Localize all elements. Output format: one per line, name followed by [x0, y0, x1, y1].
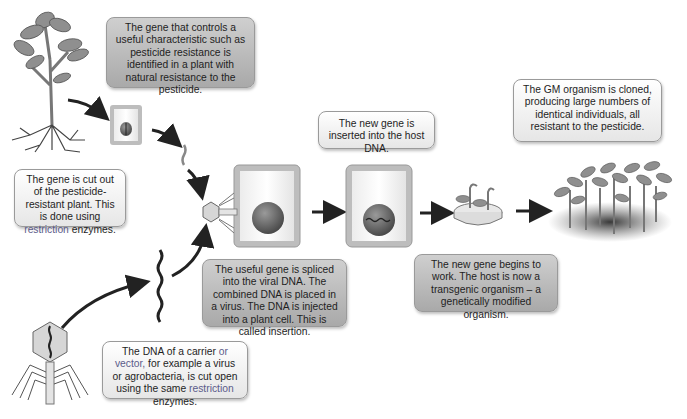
step-cut-out-box: The gene is cut out of the pesticide-res… — [14, 169, 126, 227]
step-insert-text: The new gene is inserted into the host D… — [329, 118, 425, 154]
cloned-plants-icon — [548, 160, 673, 242]
step-clone-box: The GM organism is cloned, producing lar… — [513, 79, 662, 142]
step-vector-box: The DNA of a carrier or vector, for exam… — [102, 341, 248, 399]
gene-fragment-icon — [183, 145, 186, 165]
step-splice-text: The useful gene is spliced into the vira… — [211, 264, 337, 337]
step-vector-text-3: enzymes. — [153, 396, 197, 407]
petri-dish-seedlings-icon — [454, 184, 502, 225]
step-vector-text-1: The DNA of a carrier — [122, 346, 219, 357]
step-transgenic-text: The new gene begins to work. The host is… — [431, 259, 541, 320]
vector-dna-icon — [158, 250, 162, 322]
resistant-plant-icon — [11, 9, 90, 152]
step-splice-box: The useful gene is spliced into the vira… — [202, 259, 347, 327]
step-cut-out-text-end: enzymes. — [69, 224, 116, 235]
virus-vector-icon — [12, 322, 88, 404]
step-transgenic-box: The new gene begins to work. The host is… — [414, 254, 558, 312]
virus-injecting-cell-icon — [203, 165, 300, 247]
host-cell-with-new-gene-icon — [346, 165, 412, 247]
plant-cell-icon — [110, 105, 142, 145]
step-identify-gene-box: The gene that controls a useful characte… — [106, 17, 255, 88]
restriction-term: restriction — [189, 383, 234, 394]
step-identify-gene-text: The gene that controls a useful characte… — [116, 22, 245, 95]
step-insert-box: The new gene is inserted into the host D… — [318, 111, 435, 149]
step-clone-text: The GM organism is cloned, producing lar… — [523, 84, 652, 132]
restriction-term: restriction — [24, 224, 69, 235]
step-cut-out-text: The gene is cut out of the pesticide-res… — [25, 174, 114, 222]
